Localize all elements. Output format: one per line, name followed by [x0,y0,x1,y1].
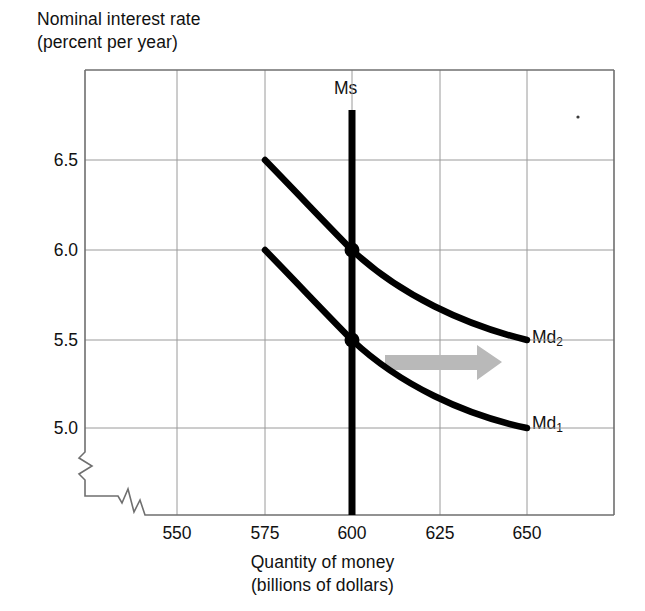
money-demand-1-curve [265,250,527,428]
plot-frame [79,70,614,515]
plot-svg [0,0,645,611]
speck-artifact [576,115,579,118]
frame-left-bottom-with-breaks [79,70,614,515]
equilibrium-point-low [345,333,360,348]
equilibrium-point-high [345,243,360,258]
money-market-chart: Nominal interest rate(percent per year) … [0,0,645,611]
